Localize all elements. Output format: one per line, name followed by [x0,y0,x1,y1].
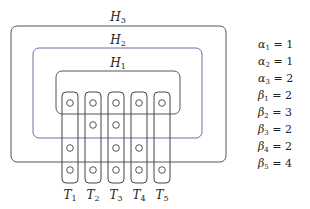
column-t1-label: T1 [63,189,76,205]
alpha-1: α1 = 1 [258,38,293,55]
vertex-circle-icon [136,100,143,107]
vertex-circle-icon [136,167,143,174]
alpha-parameters: α1 = 1α2 = 1α3 = 2 [258,38,293,89]
vertex-circle-icon [90,167,97,174]
vertex-circle-icon [113,122,120,129]
vertex-circle-icon [113,100,120,107]
beta-1: β1 = 2 [258,89,292,106]
beta-5: β5 = 4 [258,157,292,174]
column-t3-label: T3 [109,189,122,205]
vertex-circle-icon [136,145,143,152]
alpha-2: α2 = 1 [258,55,293,72]
column-t5-label: T5 [155,189,168,205]
vertex-circle-icon [159,100,166,107]
vertex-circle-icon [159,167,166,174]
beta-3: β3 = 2 [258,123,292,140]
vertex-circle-icon [90,100,97,107]
column-t2-label: T2 [86,189,99,205]
vertex-circle-icon [67,100,74,107]
hyperedge-h3-label: H3 [110,11,126,27]
vertex-circle-icon [67,167,74,174]
column-t4-label: T4 [132,189,145,205]
beta-parameters: β1 = 2β2 = 3β3 = 2β4 = 2β5 = 4 [258,89,292,174]
beta-4: β4 = 2 [258,140,292,157]
beta-2: β2 = 3 [258,106,292,123]
vertex-circle-icon [113,145,120,152]
vertex-circle-icon [113,167,120,174]
alpha-3: α3 = 2 [258,72,293,89]
vertex-circle-icon [90,122,97,129]
vertex-circle-icon [67,145,74,152]
hyperedge-h1-label: H1 [110,57,126,73]
hyperedge-h2-label: H2 [110,34,126,50]
